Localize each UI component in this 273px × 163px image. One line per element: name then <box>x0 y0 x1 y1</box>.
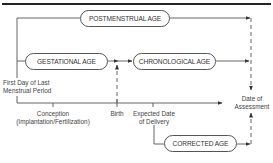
chronological-age-label: CHRONOLOGICAL AGE <box>139 58 210 65</box>
postmenstrual-age-box: POSTMENSTRUAL AGE <box>80 10 170 27</box>
chronological-age-box: CHRONOLOGICAL AGE <box>133 53 216 70</box>
corrected-age-label: CORRECTED AGE <box>173 140 229 147</box>
assessment-label: Date of Assessment <box>233 95 271 110</box>
edd-connector <box>154 125 164 144</box>
lmp-label: First Day of Last Menstrual Period <box>3 79 55 94</box>
conception-label: Conception (Implantation/Fertilization) <box>8 110 98 125</box>
lmp-connector-bottom <box>17 96 222 103</box>
postmenstrual-age-label: POSTMENSTRUAL AGE <box>89 15 161 22</box>
gestational-age-box: GESTATIONAL AGE <box>25 53 108 70</box>
birth-label: Birth <box>105 110 129 118</box>
gestational-age-label: GESTATIONAL AGE <box>37 58 96 65</box>
corrected-age-box: CORRECTED AGE <box>164 135 237 152</box>
edd-label: Expected Date of Delivery <box>133 110 175 125</box>
